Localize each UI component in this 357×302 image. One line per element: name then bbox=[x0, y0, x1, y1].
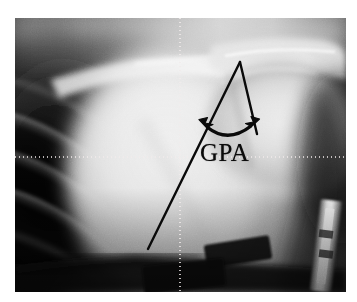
gpa-label: GPA bbox=[200, 140, 249, 165]
xray-render bbox=[15, 18, 346, 292]
film-grain bbox=[15, 18, 346, 292]
xray-image[interactable] bbox=[15, 18, 346, 292]
figure-root: GPA bbox=[0, 0, 357, 302]
